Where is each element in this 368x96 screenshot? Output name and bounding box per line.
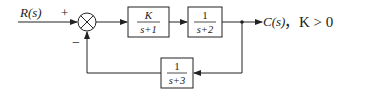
summing-junction (78, 13, 96, 31)
block-diagram: R(s) + − K s+1 1 s+2 C(s) ，K > 0 1 s+3 (0, 0, 368, 96)
sum-minus-sign: − (72, 35, 80, 50)
sum-plus-sign: + (61, 5, 68, 20)
h-numerator: 1 (174, 60, 180, 72)
g2-denominator: s+2 (197, 24, 214, 35)
g1-denominator: s+1 (140, 24, 156, 35)
g1-numerator: K (144, 9, 153, 21)
output-label: C(s) (263, 14, 285, 29)
g2-numerator: 1 (202, 9, 208, 21)
forward-block-g2: 1 s+2 (188, 7, 222, 37)
input-label: R(s) (19, 5, 42, 20)
feedback-block-h: 1 s+3 (161, 58, 193, 88)
feedback-line-left (87, 32, 161, 73)
gain-condition: ，K > 0 (284, 14, 333, 30)
forward-block-g1: K s+1 (128, 7, 169, 37)
h-denominator: s+3 (169, 75, 185, 86)
